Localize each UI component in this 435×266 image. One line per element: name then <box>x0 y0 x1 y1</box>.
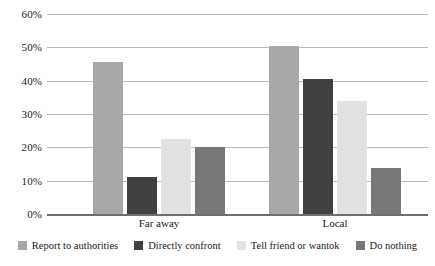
legend-swatch-icon <box>356 241 365 250</box>
y-axis-tick-label: 40% <box>2 76 42 87</box>
gridline-60 <box>47 14 428 15</box>
bar <box>161 139 191 214</box>
legend-label: Directly confront <box>148 240 221 251</box>
legend-item: Do nothing <box>356 240 418 251</box>
x-axis-category-label: Local <box>275 217 395 229</box>
bar <box>371 168 401 214</box>
bar <box>127 177 157 214</box>
x-axis-category-label: Far away <box>99 217 219 229</box>
legend-label: Report to authorities <box>32 240 118 251</box>
y-axis-tick-label: 10% <box>2 176 42 187</box>
y-axis-tick-label: 0% <box>2 209 42 220</box>
gridline-0 <box>47 214 428 216</box>
y-axis-tick-label: 50% <box>2 42 42 53</box>
legend-swatch-icon <box>237 241 246 250</box>
legend-item: Tell friend or wantok <box>237 240 340 251</box>
legend-swatch-icon <box>134 241 143 250</box>
bar <box>269 46 299 214</box>
y-axis-tick-label: 30% <box>2 109 42 120</box>
chart-legend: Report to authoritiesDirectly confrontTe… <box>0 240 435 251</box>
y-axis-tick-label: 60% <box>2 9 42 20</box>
plot-area <box>47 14 428 214</box>
legend-label: Tell friend or wantok <box>251 240 340 251</box>
bar <box>195 147 225 214</box>
legend-swatch-icon <box>18 241 27 250</box>
bar <box>303 79 333 214</box>
legend-label: Do nothing <box>370 240 418 251</box>
bar <box>93 62 123 214</box>
legend-item: Report to authorities <box>18 240 118 251</box>
gridline-50 <box>47 47 428 48</box>
bar <box>337 101 367 214</box>
y-axis-tick-label: 20% <box>2 142 42 153</box>
bar-chart: 60%50%40%30%20%10%0% Far awayLocal Repor… <box>0 0 435 266</box>
legend-item: Directly confront <box>134 240 221 251</box>
